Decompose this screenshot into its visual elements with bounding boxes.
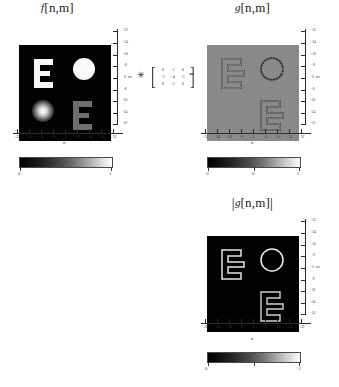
image-noise-overlay <box>19 45 111 141</box>
gray-letter-e <box>73 101 93 130</box>
panel-abs-g: |g[n,m]| +32 +24 +16 +8 0 -8 -16 <box>196 195 339 387</box>
colorbar-g-label-mid: 0 <box>252 171 254 176</box>
panel-abs-g-title-args: [n,m] <box>241 195 271 210</box>
kernel-cell-1-1: −4 <box>168 73 178 80</box>
kernel-cell-1-2: +1 <box>178 73 188 80</box>
image-g <box>207 45 299 141</box>
panel-g-title-args: [n,m] <box>241 0 271 15</box>
abs-g-edges-svg <box>207 236 299 332</box>
kernel-cell-1-0: +1 <box>158 73 168 80</box>
panel-abs-g-yaxis <box>305 219 306 315</box>
kernel-cell-0-0: 0 <box>158 66 168 73</box>
kernel-cell-0-1: +1 <box>168 66 178 73</box>
colorbar-f-label-min: 0 <box>18 171 20 176</box>
panel-abs-g-ylabel: m <box>316 264 320 269</box>
colorbar-g-label-max: 2 <box>297 171 299 176</box>
equals-symbol: = <box>189 69 194 79</box>
panel-f-yaxis <box>117 29 118 125</box>
abs-bar-right: | <box>270 196 273 211</box>
kernel-cell-0-2: 0 <box>178 66 188 73</box>
panel-f-xaxis <box>13 133 123 134</box>
panel-f-xlabel: n <box>63 140 66 145</box>
colorbar-f-label-max: 1 <box>109 171 111 176</box>
colorbar-abs-g-label-min: 0 <box>205 366 207 371</box>
colorbar-abs-g-label-max: +2 <box>296 366 301 371</box>
panel-abs-g-title: |g[n,m]| <box>196 195 309 212</box>
kernel-cell-2-2: 0 <box>178 80 188 87</box>
panel-f-ylabel: m <box>128 74 132 79</box>
panel-g-xaxis <box>201 133 311 134</box>
kernel-cell-2-1: +1 <box>168 80 178 87</box>
colorbar-g-label-min: -2 <box>205 171 209 176</box>
panel-g-title: g[n,m] <box>196 0 309 16</box>
kernel-bracket-left: [ <box>151 63 156 89</box>
white-letter-e <box>34 59 54 88</box>
panel-abs-g-xaxis <box>201 323 311 324</box>
kernel-cell-2-0: 0 <box>158 80 168 87</box>
panel-abs-g-xlabel: n <box>251 336 254 341</box>
g-edges-svg <box>207 45 299 141</box>
convolution-symbol: ✳ <box>137 70 145 80</box>
panel-f: f[n,m] +32 +24 +16 +8 0 <box>0 0 140 190</box>
panel-f-title-args: [n,m] <box>44 0 74 15</box>
panel-g-yaxis <box>305 29 306 125</box>
gaussian-blob <box>32 100 54 122</box>
panel-f-title: f[n,m] <box>0 0 115 16</box>
colorbar-abs-g-tick-mid <box>254 362 255 366</box>
colorbar-abs-g-tick-min <box>208 362 209 366</box>
image-abs-g <box>207 236 299 332</box>
panel-g-xlabel: n <box>251 140 254 145</box>
image-f <box>19 45 111 141</box>
white-disc <box>73 58 95 80</box>
panel-g-ylabel: m <box>316 74 320 79</box>
kernel-grid: 0 +1 0 +1 −4 +1 0 +1 0 <box>158 66 188 87</box>
colorbar-f <box>19 157 113 168</box>
panel-g: g[n,m] +32 +24 +16 <box>196 0 339 190</box>
